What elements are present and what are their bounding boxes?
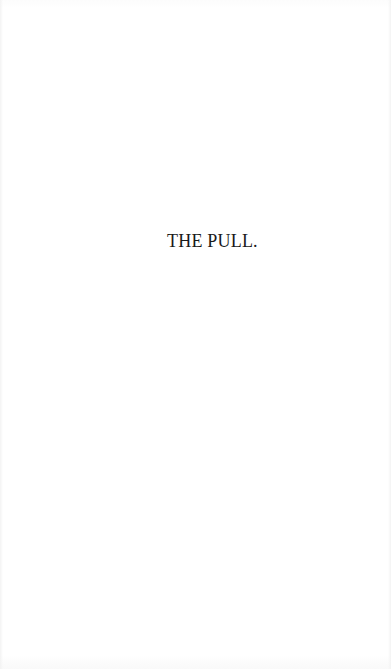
page-edge-left: [0, 0, 3, 669]
book-page: THE PULL.: [0, 0, 391, 669]
chapter-title: THE PULL.: [167, 231, 258, 251]
